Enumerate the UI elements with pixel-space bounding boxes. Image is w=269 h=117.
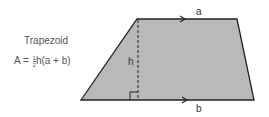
trapezoid-shape xyxy=(81,19,254,100)
label-a: a xyxy=(196,6,202,17)
label-h: h xyxy=(128,56,134,67)
trapezoid-figure: a b h xyxy=(0,0,269,117)
label-b: b xyxy=(196,103,202,114)
